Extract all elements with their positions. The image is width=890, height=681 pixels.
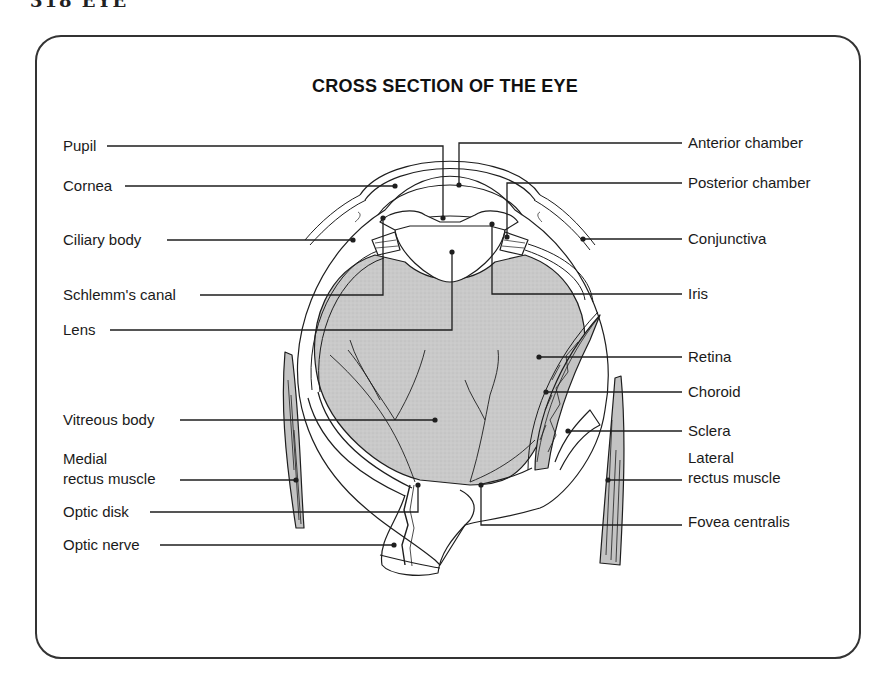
label-cornea: Cornea — [63, 177, 112, 195]
label-medial-rectus-muscle-line2: rectus muscle — [63, 469, 156, 489]
leader-dot-vitreous-body — [432, 417, 437, 422]
leader-dot-optic-disk — [415, 482, 420, 487]
label-optic-nerve: Optic nerve — [63, 536, 140, 554]
eye-illustration — [283, 161, 624, 575]
leader-dot-lens — [449, 249, 454, 254]
leader-dot-anterior-chamber — [456, 182, 461, 187]
label-retina: Retina — [688, 348, 731, 366]
leader-dot-medial-rectus-muscle — [293, 477, 298, 482]
label-lateral-rectus-muscle: Lateralrectus muscle — [688, 448, 781, 488]
eye-cross-section-diagram — [0, 0, 890, 681]
label-choroid: Choroid — [688, 383, 741, 401]
leader-line-anterior-chamber — [459, 143, 682, 185]
label-optic-disk: Optic disk — [63, 503, 129, 521]
leader-dot-posterior-chamber — [504, 234, 509, 239]
label-ciliary-body: Ciliary body — [63, 231, 141, 249]
leader-dot-iris — [489, 221, 494, 226]
label-medial-rectus-muscle-line1: Medial — [63, 449, 156, 469]
label-vitreous-body: Vitreous body — [63, 411, 154, 429]
leader-dot-choroid — [543, 389, 548, 394]
label-pupil: Pupil — [63, 137, 96, 155]
label-schlemms-canal: Schlemm's canal — [63, 286, 176, 304]
label-lateral-rectus-muscle-line1: Lateral — [688, 448, 781, 468]
leader-dot-lateral-rectus-muscle — [605, 477, 610, 482]
leader-dot-schlemms-canal — [380, 215, 385, 220]
leader-dot-optic-nerve — [391, 542, 396, 547]
label-iris: Iris — [688, 285, 708, 303]
label-lens: Lens — [63, 321, 96, 339]
leader-dot-conjunctiva — [580, 236, 585, 241]
label-conjunctiva: Conjunctiva — [688, 230, 766, 248]
label-fovea-centralis: Fovea centralis — [688, 513, 790, 531]
leader-dot-sclera — [565, 428, 570, 433]
leader-dot-cornea — [392, 183, 397, 188]
leader-dot-retina — [536, 354, 541, 359]
label-medial-rectus-muscle: Medialrectus muscle — [63, 449, 156, 489]
leader-dot-ciliary-body — [350, 237, 355, 242]
label-posterior-chamber: Posterior chamber — [688, 174, 811, 192]
label-sclera: Sclera — [688, 422, 731, 440]
leader-dot-fovea-centralis — [478, 482, 483, 487]
label-lateral-rectus-muscle-line2: rectus muscle — [688, 468, 781, 488]
label-anterior-chamber: Anterior chamber — [688, 134, 803, 152]
leader-dot-pupil — [440, 215, 445, 220]
